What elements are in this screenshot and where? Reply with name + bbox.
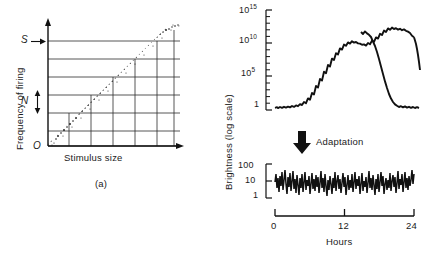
upper-trace-dusk-line <box>361 31 419 108</box>
figure-root: Frequency of firing S N O <box>0 0 426 255</box>
x-tick-24: 24 <box>406 220 417 231</box>
lower-trace-line <box>275 170 414 196</box>
lower-tick-10: 10 <box>245 175 255 185</box>
panel-a: Frequency of firing S N O <box>0 0 213 255</box>
adaptation-label: Adaptation <box>316 136 363 147</box>
panel-a-origin-label: O <box>33 140 41 151</box>
panel-b-xlabel: Hours <box>326 236 352 247</box>
x-tick-12: 12 <box>338 220 349 231</box>
panel-a-xlabel: Stimulus size <box>64 152 123 163</box>
marker-s-label: S <box>21 34 28 45</box>
lower-y-axis <box>266 164 272 198</box>
lower-tick-1: 1 <box>253 190 258 200</box>
x-tick-0: 0 <box>271 220 276 231</box>
upper-y-axis-minor-ticks <box>266 17 270 104</box>
panel-b-ylabel: Brightness (log scale) <box>223 94 234 190</box>
panel-a-vertical-gridlines <box>69 30 174 146</box>
panel-a-horizontal-gridlines <box>48 41 180 146</box>
panel-b: Brightness (log scale) 1015 1010 105 1 <box>213 0 426 255</box>
upper-y-axis <box>266 10 272 110</box>
panel-a-x-axis <box>48 143 184 149</box>
panel-a-y-axis <box>45 18 51 146</box>
panel-b-x-axis <box>261 208 423 220</box>
upper-tick-10e15: 1015 <box>239 3 257 15</box>
adaptation-down-arrow-icon <box>292 131 312 155</box>
panel-a-plot <box>44 18 184 148</box>
panel-a-caption: (a) <box>95 178 107 189</box>
marker-n-label: N <box>21 95 28 106</box>
upper-tick-1: 1 <box>254 99 259 109</box>
upper-tick-10e5: 105 <box>241 66 255 78</box>
lower-trace-plot <box>261 162 423 206</box>
upper-tick-10e10: 1010 <box>239 33 257 45</box>
upper-trace-dusk <box>361 8 423 118</box>
marker-n-arrow-icon <box>33 90 42 114</box>
lower-tick-100: 100 <box>238 160 254 170</box>
panel-a-ylabel: Frequency of firing <box>14 68 25 150</box>
